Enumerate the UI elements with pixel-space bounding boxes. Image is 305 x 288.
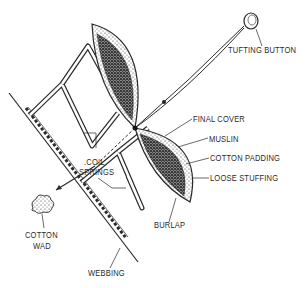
label-coil-springs-line2: SPRINGS: [79, 168, 114, 178]
label-muslin: MUSLIN: [209, 135, 239, 145]
label-cotton-padding: COTTON PADDING: [210, 154, 280, 164]
upper-padding-layers: [92, 24, 138, 128]
lower-padding-layers: [135, 128, 193, 202]
label-cotton-wad-line1: COTTON: [25, 231, 58, 241]
label-cotton-wad-line2: WAD: [33, 242, 51, 252]
label-final-cover: FINAL COVER: [193, 115, 245, 125]
label-loose-stuffing: LOOSE STUFFING: [210, 174, 278, 184]
upholstery-diagram: TUFTING BUTTON FINAL COVER MUSLIN COTTON…: [0, 0, 305, 288]
label-burlap: BURLAP: [154, 221, 185, 231]
label-coil-springs-line1: .COIL: [84, 158, 105, 168]
label-webbing: WEBBING: [88, 269, 125, 279]
label-tufting-button: TUFTING BUTTON: [228, 46, 296, 56]
tufting-button-shape: [244, 13, 258, 29]
cotton-wad-shape: [32, 195, 54, 213]
